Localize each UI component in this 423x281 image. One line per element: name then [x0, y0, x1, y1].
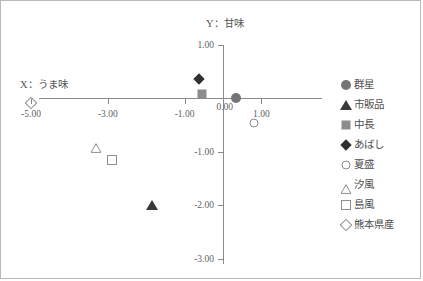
x-tick-mark — [185, 99, 186, 104]
x-tick-mark — [261, 99, 262, 104]
legend-label: 熊本県産 — [354, 220, 394, 231]
legend-marker — [339, 79, 352, 92]
y-tick-label: -2.00 — [194, 200, 214, 210]
marker-square-filled-icon — [197, 90, 206, 99]
legend-marker — [339, 219, 352, 232]
y-tick-label: -3.00 — [194, 254, 214, 264]
legend-item[interactable]: 熊本県産 — [339, 215, 419, 235]
legend-marker — [339, 179, 352, 192]
y-axis-line — [223, 45, 224, 264]
marker-circle-open-icon — [341, 161, 350, 170]
marker-triangle-filled-icon — [340, 100, 352, 110]
legend-item[interactable]: あばし — [339, 135, 419, 155]
legend-item[interactable]: 群星 — [339, 75, 419, 95]
legend-label: 夏盛 — [354, 160, 374, 171]
legend-label: 島風 — [354, 200, 374, 211]
legend-item[interactable]: 島風 — [339, 195, 419, 215]
marker-diamond-open-icon — [339, 219, 352, 232]
marker-circle-filled-icon — [231, 93, 241, 103]
legend-item[interactable]: 中長 — [339, 115, 419, 135]
legend-marker — [339, 119, 352, 132]
marker-square-open-icon — [107, 155, 117, 165]
marker-square-open-icon — [341, 200, 351, 210]
legend-label: 市販品 — [354, 100, 384, 111]
legend-marker — [339, 199, 352, 212]
y-tick-mark — [218, 45, 223, 46]
marker-triangle-open-icon — [91, 139, 102, 149]
marker-diamond-filled-icon — [194, 73, 205, 84]
legend-label: 汐風 — [354, 180, 374, 191]
marker-triangle-filled-icon — [146, 200, 158, 210]
marker-circle-open-icon — [250, 118, 259, 127]
legend-marker — [339, 139, 352, 152]
legend-item[interactable]: 汐風 — [339, 175, 419, 195]
x-tick-mark — [108, 99, 109, 104]
legend-item[interactable]: 市販品 — [339, 95, 419, 115]
legend-label: 中長 — [354, 120, 374, 131]
legend-label: あばし — [354, 140, 384, 151]
x-tick-label: -1.00 — [175, 109, 195, 119]
legend-marker — [339, 99, 352, 112]
marker-square-filled-icon — [341, 121, 350, 130]
y-tick-mark — [218, 259, 223, 260]
x-axis-line — [39, 98, 322, 99]
y-tick-mark — [218, 152, 223, 153]
marker-circle-filled-icon — [341, 80, 351, 90]
legend-label: 群星 — [354, 80, 374, 91]
x-tick-label: -3.00 — [98, 109, 118, 119]
x-tick-label: -5.00 — [21, 109, 41, 119]
marker-diamond-filled-icon — [340, 139, 351, 150]
y-tick-label: 1.00 — [197, 40, 214, 50]
scatter-chart: Y：甘味 X：うま味 -5.00-3.00-1.001.00 1.000.00-… — [0, 0, 421, 279]
marker-triangle-open-icon — [340, 180, 351, 190]
y-tick-mark — [218, 205, 223, 206]
legend-item[interactable]: 夏盛 — [339, 155, 419, 175]
marker-diamond-open-icon — [25, 97, 38, 110]
legend-marker — [339, 159, 352, 172]
legend: 群星市販品中長あばし夏盛汐風島風熊本県産 — [339, 75, 419, 235]
y-tick-label: 0.00 — [216, 102, 233, 112]
y-tick-label: -1.00 — [194, 147, 214, 157]
